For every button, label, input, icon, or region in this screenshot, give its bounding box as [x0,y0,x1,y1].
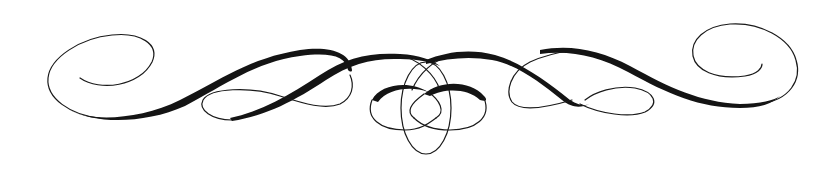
left-flourish [48,35,440,121]
center-knot [370,56,486,154]
flourish-ornament-icon [0,0,836,170]
right-flourish [426,24,798,115]
flourish-divider [0,0,836,170]
